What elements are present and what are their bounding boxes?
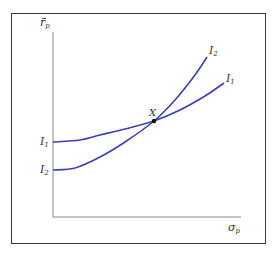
- chart-plot: [0, 0, 278, 254]
- y-axis-label: r̄p: [40, 17, 50, 30]
- x-axis-label-main: σ: [228, 221, 236, 234]
- x-axis-label-sub: p: [236, 227, 240, 235]
- i1-right-label-sub: 1: [230, 78, 234, 86]
- i1-left-label-sub: 1: [44, 141, 48, 149]
- i1-right-label: I1: [226, 73, 235, 86]
- y-axis-label-sub: p: [45, 22, 49, 30]
- i1-left-label: I1: [40, 136, 49, 149]
- indifference-curve-i2: [53, 57, 207, 170]
- point-x-label: X: [149, 108, 156, 118]
- i2-left-label-sub: 2: [44, 169, 48, 177]
- x-axis-label: σp: [228, 222, 240, 235]
- point-x-marker: [152, 119, 156, 123]
- i2-right-label-sub: 2: [213, 50, 217, 58]
- i2-right-label: I2: [209, 45, 218, 58]
- i2-left-label: I2: [40, 164, 49, 177]
